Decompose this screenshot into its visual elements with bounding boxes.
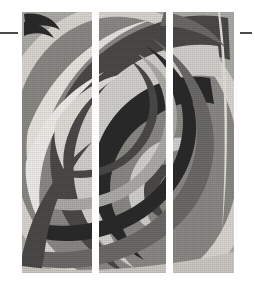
panel-gutter-1 — [92, 12, 99, 273]
art-panel-right — [173, 12, 234, 273]
spiral-triptych — [22, 12, 234, 273]
art-panel-left — [22, 12, 92, 273]
crop-tick-right — [240, 32, 252, 34]
spiral-artwork-slice — [22, 12, 92, 273]
spiral-artwork-slice — [99, 12, 167, 273]
art-panel-center — [99, 12, 167, 273]
crop-tick-left — [0, 32, 18, 34]
artwork-canvas — [0, 0, 255, 289]
panel-gutter-2 — [166, 12, 173, 273]
spiral-artwork-slice — [173, 12, 234, 273]
